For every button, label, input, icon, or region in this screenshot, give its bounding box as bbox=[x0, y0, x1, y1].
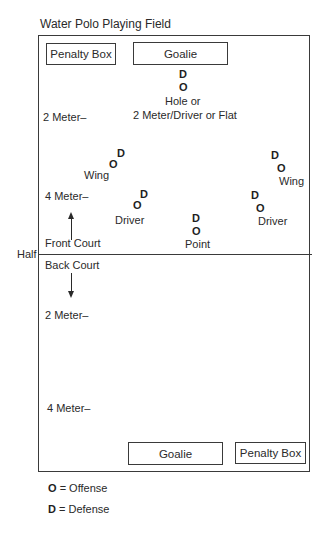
point-label: Point bbox=[185, 238, 210, 250]
bottom-4-meter-label: 4 Meter– bbox=[47, 402, 90, 414]
hole-defense-marker: D bbox=[179, 68, 187, 80]
hole-label-alt: 2 Meter/Driver or Flat bbox=[133, 109, 237, 121]
right-wing-defense-marker: D bbox=[271, 149, 279, 161]
point-defense-marker: D bbox=[192, 212, 200, 224]
right-driver-label: Driver bbox=[258, 215, 287, 227]
top-4-meter-label: 4 Meter– bbox=[45, 190, 88, 202]
legend-offense-symbol: O bbox=[48, 482, 57, 494]
legend-defense-text: = Defense bbox=[59, 503, 109, 515]
right-wing-label: Wing bbox=[279, 175, 304, 187]
top-goalie-box: Goalie bbox=[133, 42, 228, 65]
legend-offense: O = Offense bbox=[48, 482, 107, 494]
right-driver-offense-marker: O bbox=[256, 202, 265, 214]
back-court-label: Back Court bbox=[45, 259, 99, 271]
left-wing-label: Wing bbox=[84, 169, 109, 181]
half-line bbox=[38, 254, 312, 255]
legend-defense-symbol: D bbox=[48, 503, 56, 515]
hole-label: Hole or bbox=[165, 95, 200, 107]
legend-offense-text: = Offense bbox=[60, 482, 108, 494]
right-wing-offense-marker: O bbox=[277, 162, 286, 174]
bottom-goalie-box: Goalie bbox=[128, 442, 223, 465]
hole-offense-marker: O bbox=[179, 81, 188, 93]
left-driver-label: Driver bbox=[115, 214, 144, 226]
legend-defense: D = Defense bbox=[48, 503, 109, 515]
right-driver-defense-marker: D bbox=[251, 189, 259, 201]
top-penalty-box: Penalty Box bbox=[46, 43, 116, 65]
front-court-label: Front Court bbox=[45, 237, 101, 249]
top-2-meter-label: 2 Meter– bbox=[43, 111, 86, 123]
bottom-penalty-box: Penalty Box bbox=[235, 442, 306, 464]
left-wing-defense-marker: D bbox=[117, 147, 125, 159]
bottom-2-meter-label: 2 Meter– bbox=[45, 309, 88, 321]
left-driver-offense-marker: O bbox=[133, 199, 142, 211]
diagram-title: Water Polo Playing Field bbox=[40, 17, 171, 31]
point-offense-marker: O bbox=[192, 225, 201, 237]
half-label: Half bbox=[17, 248, 37, 260]
left-wing-offense-marker: O bbox=[109, 158, 118, 170]
